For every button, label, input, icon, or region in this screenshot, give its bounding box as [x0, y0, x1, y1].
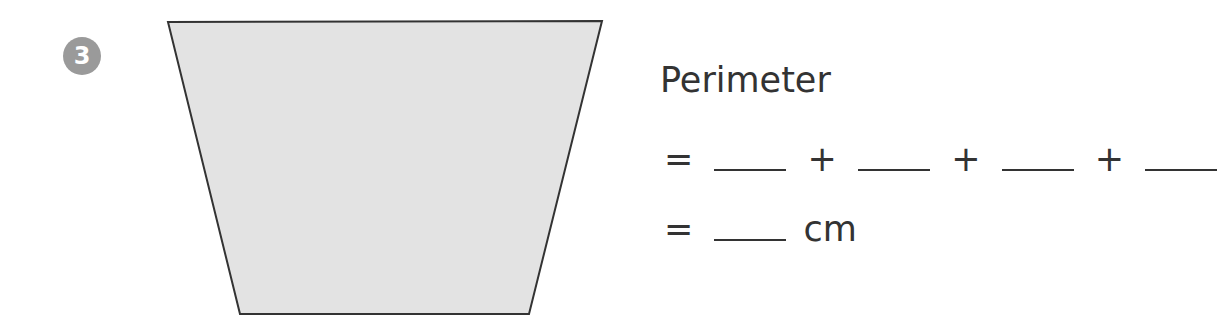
equals-sign: = — [664, 209, 693, 249]
unit-label: cm — [804, 209, 857, 249]
perimeter-label: Perimeter — [660, 60, 831, 100]
side-2-blank[interactable] — [858, 141, 930, 171]
total-blank[interactable] — [714, 211, 786, 241]
perimeter-sum-line: = + + + — [660, 139, 1221, 179]
plus-sign: + — [808, 139, 837, 179]
perimeter-total-line: = cm — [660, 209, 857, 249]
equals-sign: = — [664, 139, 693, 179]
trapezoid-polygon — [168, 21, 602, 314]
plus-sign: + — [951, 139, 980, 179]
side-4-blank[interactable] — [1145, 141, 1217, 171]
side-3-blank[interactable] — [1002, 141, 1074, 171]
plus-sign: + — [1095, 139, 1124, 179]
side-1-blank[interactable] — [714, 141, 786, 171]
